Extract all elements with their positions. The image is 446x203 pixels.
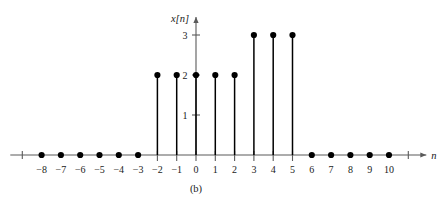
stem-head-n-6 [77, 152, 83, 158]
stem-head-n-4 [116, 152, 122, 158]
x-tick-label--4: −4 [113, 164, 124, 175]
stem-head-n8 [347, 152, 353, 158]
stem-head-n-2 [154, 72, 160, 78]
stem-head-n9 [367, 152, 373, 158]
stem-head-n1 [212, 72, 218, 78]
stem-head-n5 [289, 32, 295, 38]
x-tick-label--3: −3 [133, 164, 144, 175]
stem-head-n-8 [39, 152, 45, 158]
x-tick-label-0: 0 [194, 164, 199, 175]
x-tick-label-9: 9 [367, 164, 372, 175]
x-tick-label-10: 10 [384, 164, 394, 175]
x-tick-label-3: 3 [251, 164, 256, 175]
stem-head-n4 [270, 32, 276, 38]
x-tick-label-6: 6 [309, 164, 314, 175]
x-tick-label-8: 8 [348, 164, 353, 175]
x-axis-label: n [431, 150, 436, 161]
y-axis-arrowhead [193, 17, 198, 23]
stem-head-n-1 [174, 72, 180, 78]
figure-caption: (b) [190, 183, 203, 195]
x-tick-label-4: 4 [271, 164, 276, 175]
y-tick-label-3: 3 [183, 30, 188, 41]
x-tick-label-7: 7 [329, 164, 334, 175]
x-tick-label--1: −1 [171, 164, 182, 175]
y-tick-label-2: 2 [183, 70, 188, 81]
stem-plot-figure: nx[n]123−8−7−6−5−4−3−2−1012345678910(b) [0, 0, 446, 203]
stem-head-n-5 [96, 152, 102, 158]
stem-head-n-3 [135, 152, 141, 158]
x-tick-label--7: −7 [56, 164, 67, 175]
x-tick-label-1: 1 [213, 164, 218, 175]
x-tick-label--5: −5 [94, 164, 105, 175]
stem-head-n6 [309, 152, 315, 158]
stem-head-n7 [328, 152, 334, 158]
stem-head-n0 [193, 72, 199, 78]
x-tick-label--6: −6 [75, 164, 86, 175]
y-axis-label: x[n] [170, 13, 189, 24]
x-tick-label-2: 2 [232, 164, 237, 175]
x-tick-label-5: 5 [290, 164, 295, 175]
x-axis-arrowhead [420, 152, 426, 157]
stem-plot-canvas: nx[n]123−8−7−6−5−4−3−2−1012345678910(b) [0, 0, 446, 203]
x-tick-label--8: −8 [36, 164, 47, 175]
stem-head-n3 [251, 32, 257, 38]
stem-head-n2 [232, 72, 238, 78]
stem-head-n-7 [58, 152, 64, 158]
x-tick-label--2: −2 [152, 164, 163, 175]
y-tick-label-1: 1 [183, 110, 188, 121]
stem-head-n10 [386, 152, 392, 158]
